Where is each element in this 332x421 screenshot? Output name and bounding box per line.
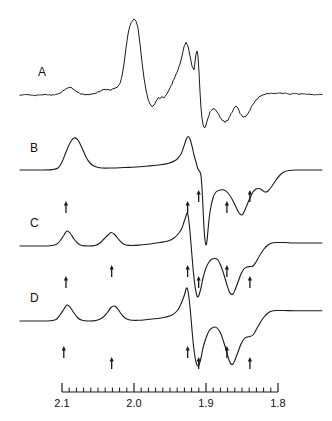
turning-point-arrow-icon [186,346,190,358]
trace-label-c: C [30,216,39,230]
turning-point-arrow-icon [197,190,201,202]
turning-point-arrow-icon [186,265,190,277]
axis-tick-label: 2.0 [126,397,141,409]
spectrum-trace-b [20,136,322,245]
turning-point-arrow-icon [197,276,201,288]
axis-group: 2.12.01.91.8 [54,383,285,409]
turning-point-arrow-icon [62,346,66,358]
turning-point-arrow-icon [64,201,68,213]
turning-point-arrow-icon [110,357,114,369]
arrow-row-c [64,190,252,213]
axis-tick-label: 1.9 [198,397,213,409]
trace-labels-group: A B C D [30,65,46,305]
epr-spectra-figure: 2.12.01.91.8 A B C D [0,0,332,421]
axis-tick-label: 2.1 [54,397,69,409]
spectrum-trace-a [20,19,322,128]
traces-group [20,19,322,366]
turning-point-arrow-icon [64,276,68,288]
turning-point-arrow-icon [225,201,229,213]
spectrum-trace-c [20,213,322,297]
turning-point-arrow-icon [248,357,252,369]
turning-point-arrow-icon [248,276,252,288]
arrow-row-bottom [62,346,252,369]
turning-point-arrow-icon [225,265,229,277]
trace-label-d: D [30,291,39,305]
arrow-row-d [64,265,252,288]
trace-label-a: A [38,65,46,79]
turning-point-arrow-icon [186,201,190,213]
turning-point-arrow-icon [110,265,114,277]
axis-tick-label: 1.8 [270,397,285,409]
trace-label-b: B [30,141,38,155]
spectrum-trace-d [20,288,322,366]
spectra-plot: 2.12.01.91.8 A B C D [0,0,332,421]
